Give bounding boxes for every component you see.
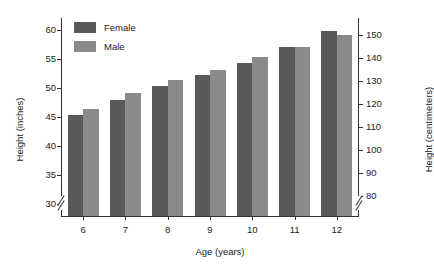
bar-male-age-10 xyxy=(252,57,268,216)
x-tick-label-6: 6 xyxy=(63,224,103,235)
y-tick-label-left: 55 xyxy=(16,54,56,64)
y-tick-right xyxy=(359,81,363,82)
y-tick-right xyxy=(359,58,363,59)
y-tick-left xyxy=(57,146,61,147)
y-axis-title-right: Height (centimeters) xyxy=(423,55,434,205)
y-tick-right xyxy=(359,173,363,174)
bar-male-age-7 xyxy=(125,93,141,216)
bar-female-age-10 xyxy=(237,63,253,216)
axis-spine-left xyxy=(61,18,62,216)
y-tick-left xyxy=(57,59,61,60)
legend-item-male: Male xyxy=(74,39,136,53)
y-tick-label-right: 140 xyxy=(366,53,406,63)
bar-female-age-6 xyxy=(68,115,84,216)
y-tick-label-left: 60 xyxy=(16,25,56,35)
y-tick-right xyxy=(359,150,363,151)
legend-item-female: Female xyxy=(74,20,136,34)
x-tick-label-12: 12 xyxy=(317,224,357,235)
x-tick-label-8: 8 xyxy=(148,224,188,235)
bar-female-age-9 xyxy=(195,75,211,217)
axis-break-icon-right xyxy=(352,194,366,212)
y-tick-label-right: 150 xyxy=(366,30,406,40)
y-tick-label-right: 120 xyxy=(366,99,406,109)
bar-male-age-9 xyxy=(210,70,226,216)
y-tick-left xyxy=(57,175,61,176)
x-tick-label-11: 11 xyxy=(275,224,315,235)
y-tick-label-right: 80 xyxy=(366,191,406,201)
x-tick-label-7: 7 xyxy=(105,224,145,235)
male-color-swatch xyxy=(74,41,96,52)
y-tick-label-left: 30 xyxy=(16,199,56,209)
y-tick-right xyxy=(359,127,363,128)
x-tick xyxy=(83,216,84,220)
bar-female-age-12 xyxy=(321,31,337,216)
y-tick-right xyxy=(359,35,363,36)
y-tick-label-left: 35 xyxy=(16,170,56,180)
y-tick-label-right: 110 xyxy=(366,122,406,132)
bar-male-age-6 xyxy=(83,109,99,216)
y-tick-label-right: 90 xyxy=(366,168,406,178)
legend-label-male: Male xyxy=(104,41,125,52)
x-tick xyxy=(125,216,126,220)
y-tick-left xyxy=(57,88,61,89)
female-color-swatch xyxy=(74,22,96,33)
x-tick xyxy=(168,216,169,220)
bar-male-age-12 xyxy=(337,35,353,216)
y-tick-label-left: 50 xyxy=(16,83,56,93)
y-tick-label-left: 40 xyxy=(16,141,56,151)
x-tick xyxy=(337,216,338,220)
chart-legend: Female Male xyxy=(74,20,136,58)
x-tick-label-9: 9 xyxy=(190,224,230,235)
bar-female-age-8 xyxy=(152,86,168,216)
y-tick-left xyxy=(57,30,61,31)
bar-male-age-8 xyxy=(168,80,184,216)
axis-spine-right xyxy=(358,18,359,216)
y-tick-right xyxy=(359,104,363,105)
legend-label-female: Female xyxy=(104,22,136,33)
y-tick-label-right: 100 xyxy=(366,145,406,155)
x-axis-title: Age (years) xyxy=(110,246,330,257)
x-tick xyxy=(295,216,296,220)
axis-break-icon-left xyxy=(54,194,68,212)
y-tick-label-left: 45 xyxy=(16,112,56,122)
x-tick xyxy=(252,216,253,220)
x-tick-label-10: 10 xyxy=(232,224,272,235)
y-tick-left xyxy=(57,117,61,118)
bar-female-age-7 xyxy=(110,100,126,216)
bar-male-age-11 xyxy=(295,47,311,216)
y-tick-label-right: 130 xyxy=(366,76,406,86)
x-tick xyxy=(210,216,211,220)
bar-female-age-11 xyxy=(279,47,295,216)
